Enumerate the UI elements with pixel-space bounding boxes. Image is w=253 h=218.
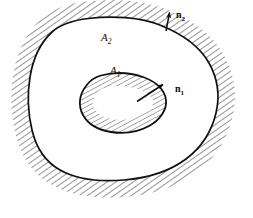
outer-normal-label: n2 (176, 9, 185, 23)
inner-region-label: A1 (110, 64, 120, 79)
inner-normal-label-subscript: 1 (181, 89, 185, 97)
outer-normal-label-subscript: 2 (182, 15, 186, 23)
outer-region-label-base: A (101, 31, 108, 43)
outer-region-label-subscript: 2 (108, 37, 112, 46)
inner-normal-label: n1 (175, 83, 184, 97)
figure-container: A2 A1 n2 n1 (0, 0, 253, 218)
inner-region-label-subscript: 1 (117, 70, 121, 79)
outer-region-label: A2 (101, 31, 111, 46)
region-diagram-svg (0, 0, 253, 218)
inner-region-label-base: A (110, 64, 117, 76)
